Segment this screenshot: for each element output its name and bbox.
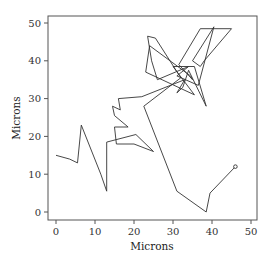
plot-frame — [48, 16, 257, 220]
chart-container: 01020304050 01020304050 Microns Microns — [0, 0, 274, 259]
y-axis-label: Microns — [10, 96, 22, 139]
y-tick-label: 20 — [28, 131, 41, 142]
x-tick-label: 10 — [89, 226, 102, 237]
trajectory-line — [56, 27, 235, 212]
y-tick-label: 50 — [28, 18, 41, 29]
y-tick-label: 40 — [28, 55, 41, 66]
y-tick-label: 10 — [28, 169, 41, 180]
x-axis-label: Microns — [130, 240, 173, 252]
x-tick-label: 30 — [167, 226, 180, 237]
x-tick-label: 40 — [206, 226, 219, 237]
y-axis-ticks: 01020304050 — [28, 18, 48, 218]
x-tick-label: 50 — [245, 226, 258, 237]
x-tick-label: 0 — [53, 226, 59, 237]
end-point-marker — [234, 165, 238, 169]
x-axis-ticks: 01020304050 — [53, 220, 258, 237]
y-tick-label: 30 — [28, 93, 41, 104]
y-tick-label: 0 — [35, 207, 41, 218]
trajectory-plot: 01020304050 01020304050 Microns Microns — [0, 0, 274, 259]
x-tick-label: 20 — [128, 226, 141, 237]
